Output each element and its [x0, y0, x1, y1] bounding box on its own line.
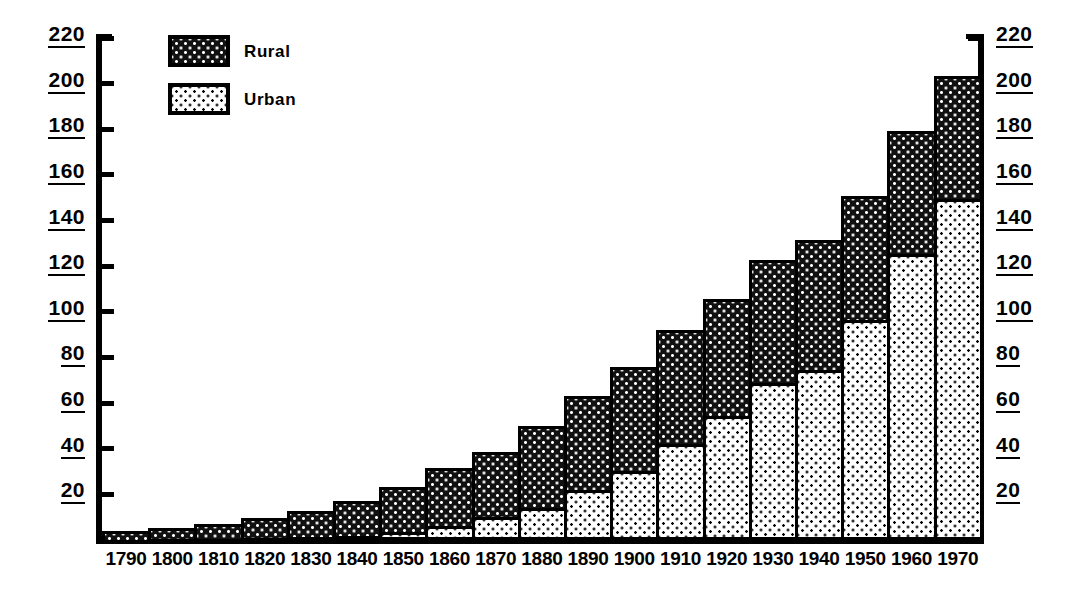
right-tick-label-120: 120: [996, 251, 1033, 276]
bar-segment-rural-1850: [379, 487, 428, 535]
legend-item-rural: Rural: [168, 34, 296, 68]
stacked-bar-chart: 22020018016014012010080604020 2202001801…: [0, 0, 1085, 590]
left-tick-label-80: 80: [61, 342, 85, 367]
left-tick-140: [100, 218, 114, 223]
left-tick-label-60: 60: [61, 388, 85, 413]
left-tick-120: [100, 264, 114, 269]
left-tick-label-100: 100: [48, 297, 85, 322]
legend-label-rural: Rural: [244, 43, 290, 60]
left-axis-spine: [96, 34, 102, 544]
left-tick-60: [100, 401, 114, 406]
right-tick-label-200: 200: [996, 69, 1033, 94]
left-tick-label-40: 40: [61, 434, 85, 459]
left-tick-100: [100, 309, 114, 314]
bar-segment-urban-1900: [610, 471, 659, 540]
left-tick-label-160: 160: [48, 160, 85, 185]
bar-segment-rural-1890: [564, 396, 613, 492]
bar-segment-rural-1960: [887, 131, 936, 257]
legend: Rural Urban: [168, 34, 296, 130]
bar-segment-rural-1870: [472, 452, 521, 520]
bar-segment-urban-1940: [795, 370, 844, 540]
left-tick-label-180: 180: [48, 114, 85, 139]
bar-segment-rural-1840: [333, 501, 382, 539]
bar-segment-urban-1920: [703, 416, 752, 540]
bar-segment-urban-1840: [333, 536, 382, 542]
rural-swatch-icon: [168, 35, 230, 67]
bar-segment-rural-1810: [194, 524, 243, 542]
right-tick-label-100: 100: [996, 297, 1033, 322]
bar-segment-urban-1930: [749, 383, 798, 540]
left-tick-200: [100, 81, 114, 86]
bar-segment-urban-1970: [934, 199, 983, 540]
bar-segment-rural-1970: [934, 76, 983, 202]
right-tick-label-60: 60: [996, 388, 1020, 413]
right-tick-label-220: 220: [996, 23, 1033, 48]
left-tick-180: [100, 127, 114, 132]
left-tick-label-20: 20: [61, 479, 85, 504]
right-tick-label-180: 180: [996, 114, 1033, 139]
left-tick-160: [100, 172, 114, 177]
bar-segment-urban-1870: [472, 517, 521, 540]
bar-segment-urban-1880: [518, 508, 567, 540]
right-tick-label-140: 140: [996, 206, 1033, 231]
right-tick-label-20: 20: [996, 479, 1020, 504]
bar-segment-urban-1830: [287, 537, 336, 543]
bar-segment-rural-1880: [518, 426, 567, 511]
right-tick-label-40: 40: [996, 434, 1020, 459]
left-tick-80: [100, 355, 114, 360]
x-axis-label-1970: 1970: [928, 548, 988, 570]
left-tick-label-140: 140: [48, 206, 85, 231]
bar-segment-urban-1860: [425, 526, 474, 540]
left-tick-40: [100, 446, 114, 451]
bar-segment-urban-1960: [887, 254, 936, 540]
bar-segment-urban-1910: [656, 444, 705, 540]
bar-segment-rural-1910: [656, 330, 705, 447]
bar-segment-urban-1950: [841, 320, 890, 540]
left-tick-20: [100, 492, 114, 497]
bar-segment-urban-1890: [564, 490, 613, 540]
bar-segment-rural-1790: [102, 531, 151, 542]
bar-segment-rural-1940: [795, 240, 844, 374]
right-tick-label-160: 160: [996, 160, 1033, 185]
bar-segment-rural-1800: [148, 528, 197, 542]
bar-segment-urban-1850: [379, 532, 428, 540]
left-tick-label-200: 200: [48, 69, 85, 94]
left-tick-label-220: 220: [48, 23, 85, 48]
urban-swatch-icon: [168, 83, 230, 115]
bar-segment-rural-1900: [610, 367, 659, 475]
bar-segment-rural-1920: [703, 299, 752, 420]
left-tick-label-120: 120: [48, 251, 85, 276]
legend-label-urban: Urban: [244, 91, 296, 108]
left-tick-220: [100, 36, 114, 41]
right-tick-220: [968, 36, 982, 41]
bar-segment-rural-1860: [425, 468, 474, 529]
legend-item-urban: Urban: [168, 82, 296, 116]
bar-segment-rural-1820: [241, 518, 290, 541]
bar-segment-rural-1930: [749, 260, 798, 386]
bar-segment-rural-1830: [287, 511, 336, 541]
right-tick-label-80: 80: [996, 342, 1020, 367]
bar-segment-rural-1950: [841, 196, 890, 323]
